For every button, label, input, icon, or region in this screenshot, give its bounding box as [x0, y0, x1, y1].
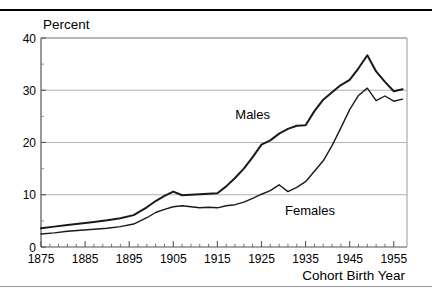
series-label-males: Males — [235, 107, 270, 122]
y-axis-title: Percent — [43, 17, 90, 32]
x-tick-label-1945: 1945 — [336, 252, 363, 266]
line-chart: 187518851895190519151925193519451955 010… — [0, 0, 432, 298]
x-axis-title: Cohort Birth Year — [302, 268, 405, 283]
x-tick-label-1885: 1885 — [72, 252, 99, 266]
x-tick-label-1895: 1895 — [116, 252, 143, 266]
y-tick-label-20: 20 — [23, 136, 37, 150]
series-label-females: Females — [285, 203, 335, 218]
x-tick-label-1905: 1905 — [160, 252, 187, 266]
x-tick-label-1955: 1955 — [380, 252, 407, 266]
x-tick-label-1935: 1935 — [292, 252, 319, 266]
bottom-divider-rule — [0, 286, 432, 287]
y-tick-label-0: 0 — [29, 241, 36, 255]
x-tick-label-1915: 1915 — [204, 252, 231, 266]
figure-container: 187518851895190519151925193519451955 010… — [0, 0, 432, 298]
x-tick-label-group: 187518851895190519151925193519451955 — [28, 252, 408, 266]
y-tick-label-30: 30 — [23, 84, 37, 98]
y-tick-label-10: 10 — [23, 188, 37, 202]
x-tick-label-1925: 1925 — [248, 252, 275, 266]
y-tick-label-40: 40 — [23, 32, 37, 46]
y-tick-label-group: 010203040 — [23, 32, 37, 255]
